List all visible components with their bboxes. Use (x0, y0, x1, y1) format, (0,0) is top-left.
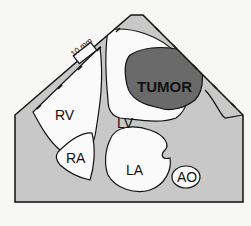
la-cavity (106, 127, 171, 192)
label-tumor: TUMOR (137, 78, 192, 95)
label-rv: RV (55, 107, 75, 123)
label-ra: RA (66, 150, 86, 166)
label-la: LA (126, 162, 144, 178)
label-lv: LV (117, 115, 134, 131)
label-ao: AO (177, 169, 197, 185)
echo-diagram: 10 mm TUMOR RV LV RA LA AO (0, 0, 251, 226)
